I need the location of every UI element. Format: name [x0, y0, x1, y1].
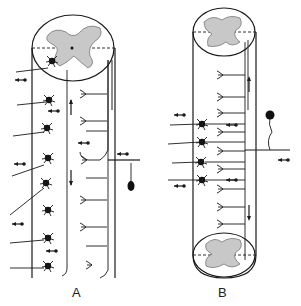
panel-b: B	[168, 8, 290, 300]
spinal-cord-diagram: A	[0, 0, 301, 306]
panel-a: A	[10, 15, 140, 300]
gray-matter-b-top	[204, 16, 241, 46]
panel-label-b: B	[218, 285, 227, 300]
gray-matter-b-bottom	[206, 238, 242, 267]
panel-label-a: A	[72, 285, 81, 300]
